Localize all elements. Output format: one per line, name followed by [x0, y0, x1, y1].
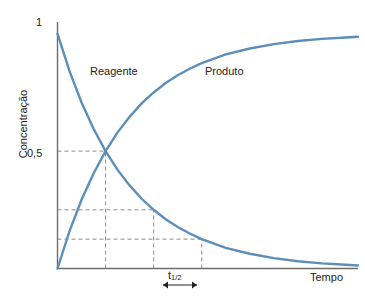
half-life-annotation: t1/2: [168, 270, 182, 282]
series-label-reagente: Reagente: [90, 66, 138, 77]
chart-svg: [0, 0, 365, 297]
chart-figure: Concentração 1 0,5 Reagente Produto Temp…: [0, 0, 365, 297]
guide-lines: [58, 151, 202, 268]
half-life-subscript: 1/2: [171, 273, 181, 282]
y-tick-label-0point5: 0,5: [27, 148, 42, 159]
y-tick-label-1: 1: [36, 17, 42, 28]
series-label-produto: Produto: [205, 66, 244, 77]
x-axis-label: Tempo: [310, 272, 343, 283]
half-life-arrow-icon: [163, 282, 197, 289]
